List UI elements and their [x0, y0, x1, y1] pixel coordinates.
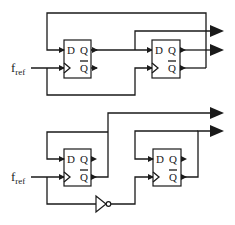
- qbar-pin-label: Q: [168, 62, 176, 74]
- qbar-pin-label: Q: [80, 171, 88, 183]
- output-arrow-icon: [210, 125, 224, 137]
- d-pin-label: D: [67, 153, 75, 165]
- flip-flop-2: D Q Q: [152, 40, 180, 78]
- q-pin-label: Q: [80, 44, 88, 56]
- d-pin-label: D: [67, 44, 75, 56]
- fref-label-bottom: fref: [11, 169, 25, 186]
- q-pin-label: Q: [169, 153, 177, 165]
- output-arrow-icon: [210, 44, 224, 56]
- circuit-diagram: fref D Q Q D Q Q: [0, 0, 235, 225]
- inverter-icon: [96, 196, 111, 212]
- output-arrow-icon: [210, 25, 224, 37]
- qbar-pin-label: Q: [80, 62, 88, 74]
- fref-label-top: fref: [11, 60, 25, 77]
- d-pin-label: D: [156, 153, 164, 165]
- output-arrow-icon: [210, 107, 224, 119]
- output-wire-4: [181, 131, 212, 177]
- d-pin-label: D: [155, 44, 163, 56]
- qbar-pin-label: Q: [169, 171, 177, 183]
- output-wire-3: [91, 113, 212, 177]
- flip-flop-3: D Q Q: [64, 149, 91, 186]
- bottom-circuit: fref D Q Q D Q: [11, 107, 224, 212]
- top-circuit: fref D Q Q D Q Q: [11, 13, 224, 95]
- flip-flop-4: D Q Q: [153, 149, 181, 186]
- q-pin-label: Q: [168, 44, 176, 56]
- inverted-clock-wire: [111, 177, 153, 204]
- clock-wire-ff2: [47, 68, 152, 95]
- q-pin-label: Q: [80, 153, 88, 165]
- flip-flop-1: D Q Q: [64, 40, 91, 78]
